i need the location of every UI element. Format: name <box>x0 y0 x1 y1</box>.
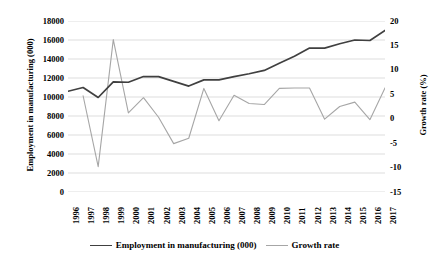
gridlines <box>68 21 385 192</box>
x-axis-tick-label: 2015 <box>359 207 368 224</box>
x-axis-tick-label: 2016 <box>374 207 383 224</box>
x-axis-tick-label: 2011 <box>298 207 307 224</box>
x-axis-tick-label: 2009 <box>268 207 277 224</box>
x-axis-tick-label: 2005 <box>208 207 217 224</box>
x-axis-tick-label: 2000 <box>132 207 141 224</box>
x-axis-tick-label: 1999 <box>117 207 126 224</box>
x-axis-tick-label: 1998 <box>102 207 111 224</box>
x-axis-tick-label: 2014 <box>344 207 353 224</box>
x-axis-tick-label: 2003 <box>178 207 187 224</box>
plot-area <box>68 21 385 192</box>
legend-label: Growth rate <box>292 240 340 250</box>
x-axis-tick-label: 2012 <box>314 207 323 224</box>
x-axis-tick-label: 2013 <box>329 207 338 224</box>
x-axis-tick-label: 2010 <box>283 207 292 224</box>
legend-entry[interactable]: Growth rate <box>266 240 340 250</box>
legend-line-icon <box>90 245 112 246</box>
x-axis-tick-label: 2001 <box>147 207 156 224</box>
x-axis-tick-label: 1997 <box>87 207 96 224</box>
x-axis-tick-label: 2004 <box>193 207 202 224</box>
x-axis-tick-label: 2008 <box>253 207 262 224</box>
chart-legend: Employment in manufacturing (000)Growth … <box>0 240 429 250</box>
series-line <box>68 31 385 98</box>
legend-line-icon <box>266 245 288 246</box>
x-axis-tick-label: 1996 <box>72 207 81 224</box>
x-axis-tick-label: 2017 <box>389 207 398 224</box>
legend-label: Employment in manufacturing (000) <box>116 240 257 250</box>
x-axis-tick-label: 2006 <box>223 207 232 224</box>
x-axis-tick-label: 2007 <box>238 207 247 224</box>
plot-svg <box>68 21 385 192</box>
legend-entry[interactable]: Employment in manufacturing (000) <box>90 240 257 250</box>
chart-figure: Employment in manufacturing (000) Growth… <box>0 0 429 262</box>
series-employment <box>68 31 385 98</box>
x-axis-tick-label: 2002 <box>163 207 172 224</box>
